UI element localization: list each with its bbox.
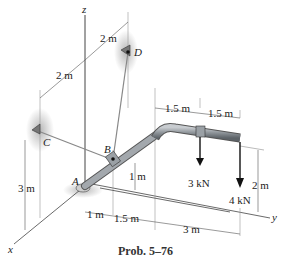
pipe-ab-fill	[85, 132, 160, 186]
load-3kn-label: 3 kN	[188, 178, 210, 189]
dim-base-1-label: 1 m	[87, 209, 104, 220]
ground-line	[100, 188, 230, 212]
dim-end-tick	[240, 146, 264, 150]
figure-caption: Prob. 5–76	[118, 244, 173, 259]
point-a-label: A	[72, 176, 79, 187]
collar-mid	[196, 126, 205, 137]
load-4kn-label: 4 kN	[229, 195, 251, 206]
dim-base-2-label: 1.5 m	[114, 213, 139, 224]
point-d-label: D	[134, 47, 142, 58]
z-axis-label: z	[82, 4, 86, 15]
diagram-canvas	[0, 0, 287, 262]
point-c-label: C	[43, 137, 50, 148]
dim-2m-lower-label: 2 m	[56, 70, 73, 81]
x-axis	[14, 190, 80, 244]
dim-3m-label: 3 m	[18, 183, 35, 194]
dim-end-2m-label: 2 m	[252, 180, 269, 191]
dim-base-3-label: 3 m	[183, 224, 200, 235]
x-axis-label: x	[8, 244, 13, 255]
dim-base-line	[85, 212, 240, 234]
dim-2m-upper-label: 2 m	[100, 33, 117, 44]
point-d-dot	[126, 50, 130, 54]
point-b-label: B	[104, 144, 111, 155]
load-4kn-head	[236, 178, 244, 188]
load-3kn-head	[196, 158, 204, 166]
dim-top-2-label: 1.5 m	[208, 108, 233, 119]
dim-1m-b-label: 1 m	[129, 171, 146, 182]
point-b-dot	[111, 157, 115, 161]
y-axis-label: y	[272, 212, 277, 223]
dim-top-1-label: 1.5 m	[165, 103, 190, 114]
